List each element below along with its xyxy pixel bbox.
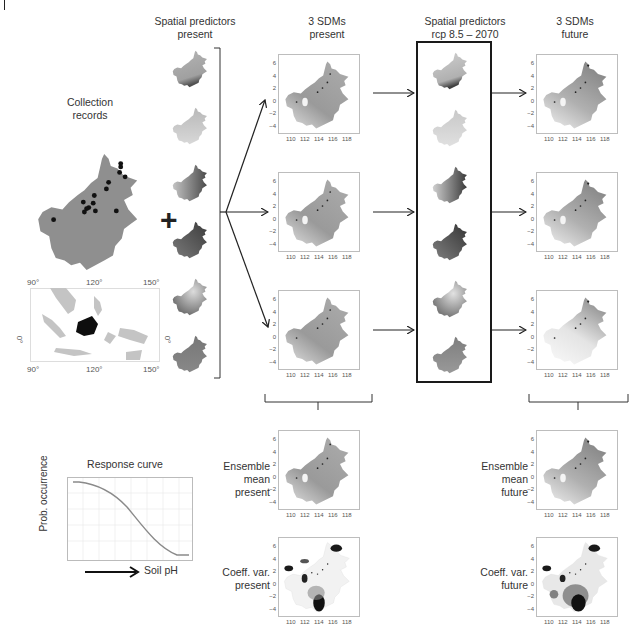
sdm-map: [282, 541, 356, 613]
y-tick-label: 6: [526, 60, 534, 67]
x-tick-label: 112: [558, 372, 568, 379]
x-tick-label: 118: [600, 512, 610, 519]
label-line: mean: [458, 473, 528, 486]
label-line: future: [458, 486, 528, 499]
label-line: present: [200, 486, 270, 499]
sdm-map: [540, 296, 614, 366]
x-tick-label: 118: [342, 136, 352, 143]
y-tick-label: 2: [268, 203, 276, 210]
sdm-future-3: [536, 290, 618, 370]
label-line: Ensemble: [458, 460, 528, 473]
x-tick-label: 112: [558, 619, 568, 626]
label-line: Ensemble: [200, 460, 270, 473]
y-tick-label: 6: [268, 436, 276, 443]
y-tick-label: 4: [526, 191, 534, 198]
x-tick-label: 114: [572, 372, 582, 379]
x-tick-label: 116: [328, 254, 338, 261]
x-tick-label: 112: [558, 512, 568, 519]
y-tick-label: 0: [526, 334, 534, 341]
x-tick-label: 118: [342, 372, 352, 379]
label-line: future: [458, 579, 528, 592]
y-tick-label: 2: [268, 321, 276, 328]
y-tick-label: 6: [268, 60, 276, 67]
x-tick-label: 110: [544, 136, 554, 143]
sdm-present-3: [278, 290, 360, 370]
x-tick-label: 116: [328, 372, 338, 379]
x-tick-label: 112: [558, 254, 568, 261]
y-tick-label: 0: [268, 98, 276, 105]
x-tick-label: 110: [544, 254, 554, 261]
ensemble-mean-future-label: Ensemble mean future: [458, 460, 528, 499]
sdm-future-2: [536, 172, 618, 252]
label-line: Coeff. var.: [458, 566, 528, 579]
y-tick-label: 2: [268, 85, 276, 92]
x-tick-label: 116: [586, 372, 596, 379]
x-tick-label: 110: [286, 619, 296, 626]
y-tick-label: −2: [268, 346, 276, 353]
y-tick-label: 0: [526, 216, 534, 223]
y-tick-label: −4: [526, 499, 534, 506]
sdm-map: [540, 541, 614, 613]
x-tick-label: 114: [572, 254, 582, 261]
x-tick-label: 110: [286, 136, 296, 143]
x-tick-label: 114: [314, 372, 324, 379]
x-tick-label: 114: [314, 136, 324, 143]
x-tick-label: 116: [586, 512, 596, 519]
soil-ph-arrow: [84, 565, 142, 579]
predictor-future-map-5: [432, 278, 470, 320]
x-tick-label: 114: [314, 254, 324, 261]
x-tick-label: 114: [572, 512, 582, 519]
y-tick-label: 6: [526, 296, 534, 303]
x-tick-label: 110: [286, 372, 296, 379]
x-tick-label: 110: [286, 254, 296, 261]
predictor-future-map-4: [432, 221, 470, 263]
y-tick-label: 6: [526, 543, 534, 550]
y-tick-label: 4: [526, 309, 534, 316]
sdm-map: [540, 436, 614, 506]
y-tick-label: 6: [268, 543, 276, 550]
response-curve-title: Response curve: [70, 458, 180, 471]
sdm-future-1: [536, 54, 618, 134]
predictor-future-map-2: [432, 107, 470, 149]
x-tick-label: 114: [572, 136, 582, 143]
x-tick-label: 116: [328, 512, 338, 519]
response-curve-xlabel: Soil pH: [144, 564, 178, 576]
y-tick-label: −4: [526, 606, 534, 613]
x-tick-label: 118: [600, 619, 610, 626]
x-tick-label: 114: [314, 512, 324, 519]
x-tick-label: 118: [600, 136, 610, 143]
y-tick-label: −2: [526, 593, 534, 600]
predictor-future-map-1: [432, 50, 470, 92]
label-line: mean: [200, 473, 270, 486]
y-tick-label: 2: [526, 85, 534, 92]
sdm-map: [282, 296, 356, 366]
y-tick-label: 0: [268, 334, 276, 341]
y-tick-label: −4: [526, 123, 534, 130]
y-tick-label: 4: [268, 309, 276, 316]
x-tick-label: 112: [300, 372, 310, 379]
y-tick-label: 0: [268, 216, 276, 223]
y-tick-label: 4: [268, 449, 276, 456]
y-tick-label: 4: [268, 73, 276, 80]
x-tick-label: 112: [300, 254, 310, 261]
y-tick-label: 4: [526, 449, 534, 456]
x-tick-label: 118: [600, 254, 610, 261]
ensemble-mean-present-label: Ensemble mean present: [200, 460, 270, 499]
ensemble-mean-present-plot: [278, 430, 360, 510]
x-tick-label: 110: [544, 512, 554, 519]
ensemble-mean-future-plot: [536, 430, 618, 510]
y-tick-label: 4: [268, 556, 276, 563]
y-tick-label: 2: [526, 321, 534, 328]
x-tick-label: 118: [342, 512, 352, 519]
x-tick-label: 112: [300, 619, 310, 626]
x-tick-label: 116: [586, 254, 596, 261]
x-tick-label: 112: [558, 136, 568, 143]
response-curve-plot: [67, 477, 193, 561]
x-tick-label: 116: [586, 136, 596, 143]
predictor-future-map-3: [432, 164, 470, 206]
y-tick-label: −4: [268, 123, 276, 130]
predictor-future-map-6: [432, 334, 470, 376]
label-line: Coeff. var.: [200, 566, 270, 579]
x-tick-label: 112: [300, 136, 310, 143]
y-tick-label: −2: [268, 593, 276, 600]
